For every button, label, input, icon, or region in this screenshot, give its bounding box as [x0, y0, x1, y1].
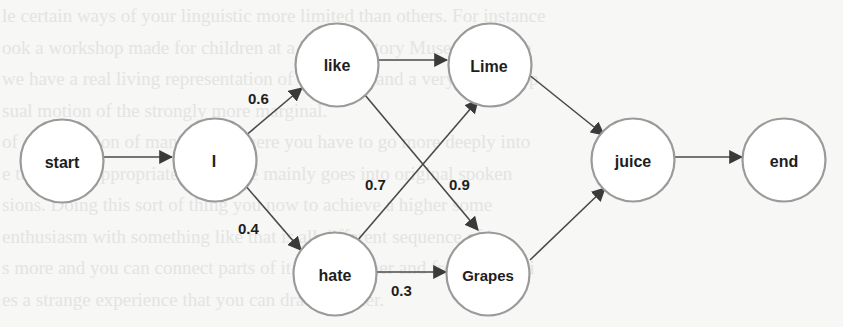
node-label: end: [770, 153, 798, 170]
word-lattice-diagram: start I like hate Lime Grapes juice end …: [0, 0, 843, 327]
weight-hate-grapes: 0.3: [391, 282, 412, 299]
node-label: start: [45, 154, 80, 171]
weight-like-grapes: 0.9: [449, 176, 470, 193]
node-label: juice: [614, 153, 652, 170]
node-like: like: [296, 24, 379, 107]
node-end: end: [743, 119, 826, 202]
node-i: I: [174, 119, 257, 202]
weight-i-like: 0.6: [248, 90, 269, 107]
edge-like-to-grapes: [365, 95, 478, 230]
edge-hate-to-lime: [357, 100, 478, 241]
node-label: Lime: [470, 58, 507, 75]
edge-i-to-hate: [244, 184, 301, 250]
weight-hate-lime: 0.7: [365, 176, 386, 193]
node-grapes: Grapes: [447, 233, 530, 316]
node-label: like: [324, 57, 351, 74]
edge-lime-to-juice: [523, 70, 604, 135]
node-label: hate: [319, 267, 352, 284]
node-lime: Lime: [449, 24, 532, 107]
node-hate: hate: [294, 233, 377, 316]
weight-i-hate: 0.4: [238, 220, 260, 237]
edge-grapes-to-juice: [530, 188, 605, 260]
node-label: I: [212, 153, 216, 170]
node-juice: juice: [592, 119, 675, 202]
node-start: start: [21, 120, 104, 203]
node-label: Grapes: [462, 267, 514, 284]
